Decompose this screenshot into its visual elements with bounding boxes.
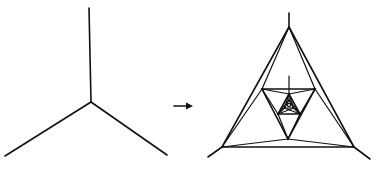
diagram-canvas	[0, 0, 376, 173]
edge-left-to-middle-bottom	[222, 139, 288, 147]
link-mb-ir	[288, 114, 300, 139]
edge-top-to-middle-right	[289, 27, 315, 89]
outer-triangle	[222, 27, 354, 147]
edge-right-to-middle-right	[315, 89, 354, 147]
vertex-arm-top	[89, 8, 91, 102]
vertex-arm-left	[5, 102, 91, 156]
star-center	[287, 103, 290, 106]
link-mb-il	[278, 114, 288, 139]
nested-triangle-figure	[208, 13, 370, 159]
link-ml-il	[262, 89, 278, 114]
trivalent-vertex-figure	[5, 8, 167, 156]
link-mr-ir	[300, 89, 315, 114]
edge-top-to-middle-left	[262, 27, 289, 89]
edge-left-to-middle-left	[222, 89, 262, 147]
transform-arrow-icon	[174, 103, 193, 110]
stub-right	[354, 147, 370, 159]
vertex-arm-right	[91, 102, 167, 155]
stub-left	[208, 147, 222, 157]
edge-right-to-middle-bottom	[288, 139, 354, 147]
